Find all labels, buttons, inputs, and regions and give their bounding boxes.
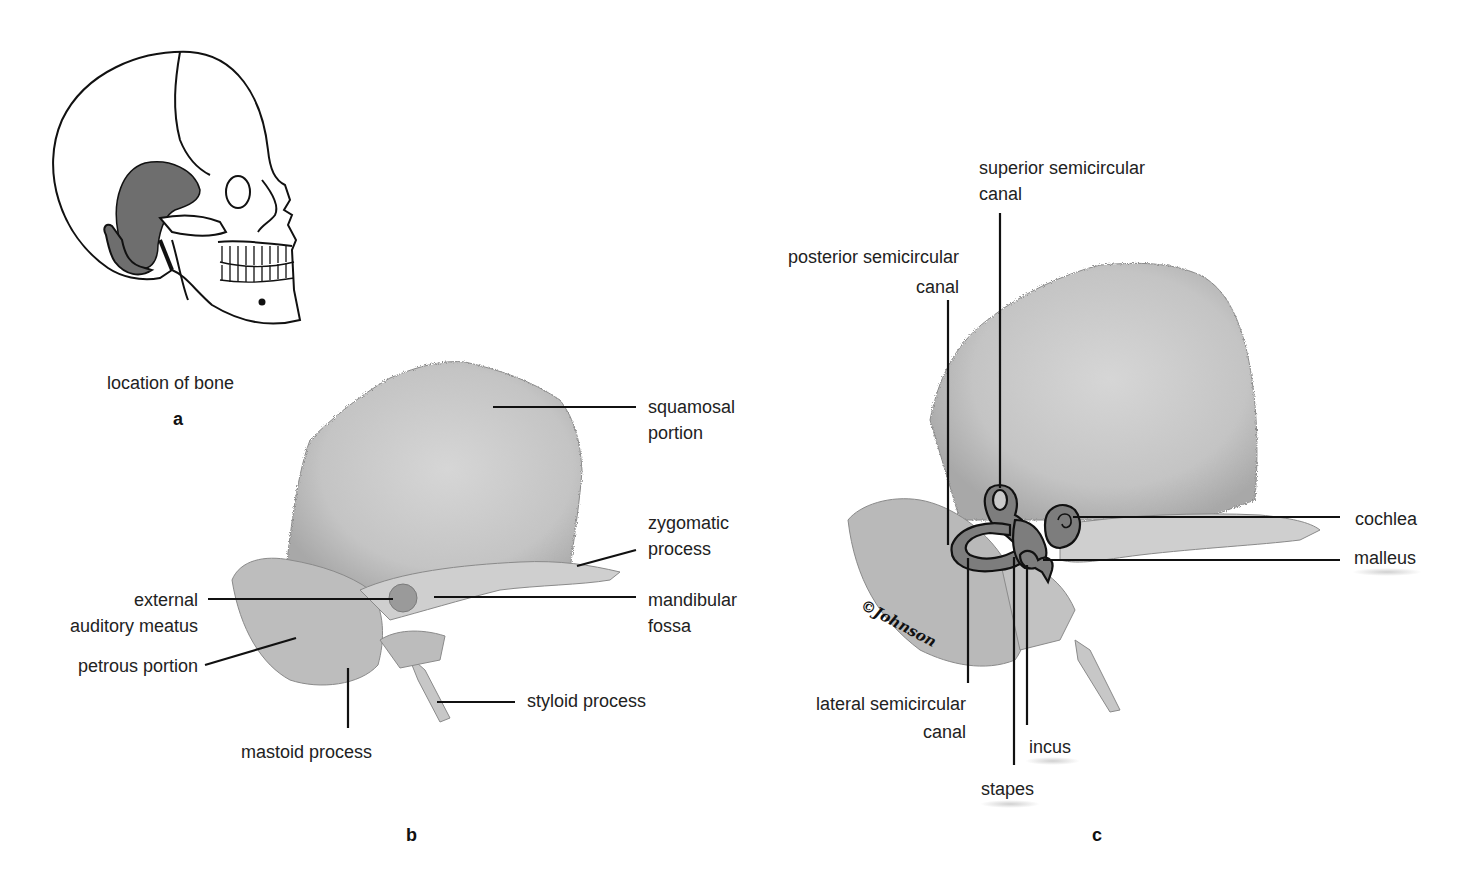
label-mastoid-process: mastoid process xyxy=(241,739,372,765)
orbit xyxy=(226,176,250,208)
label-external-auditory-meatus: external auditory meatus xyxy=(70,587,198,639)
panel-letter-a: a xyxy=(173,409,183,430)
auditory-opening xyxy=(389,584,417,612)
label-line-1: squamosal xyxy=(648,394,735,420)
label-cochlea: cochlea xyxy=(1355,506,1417,532)
label-stapes: stapes xyxy=(981,776,1034,802)
label-line-2: process xyxy=(648,536,729,562)
label-squamosal-portion: squamosal portion xyxy=(648,394,735,446)
panel-letter-b: b xyxy=(406,825,417,846)
label-lateral-semicircular-canal: lateral semicircular canal xyxy=(816,690,966,746)
label-line-2: portion xyxy=(648,420,735,446)
label-line-1: posterior semicircular xyxy=(788,242,959,272)
label-line-2: fossa xyxy=(648,613,737,639)
caption-location-of-bone: location of bone xyxy=(107,370,234,396)
label-zygomatic-process: zygomatic process xyxy=(648,510,729,562)
label-line-2: auditory meatus xyxy=(70,613,198,639)
skull-illustration xyxy=(53,52,300,324)
label-malleus: malleus xyxy=(1354,545,1416,571)
temporal-bone-lateral xyxy=(232,362,620,722)
panel-letter-c: c xyxy=(1092,825,1102,846)
label-superior-semicircular-canal: superior semicircular canal xyxy=(979,155,1145,207)
label-line-2: canal xyxy=(979,181,1145,207)
label-line-1: superior semicircular xyxy=(979,155,1145,181)
squamous-part-c xyxy=(930,263,1257,520)
styloid-c xyxy=(1075,640,1120,712)
leader-zygomatic xyxy=(577,550,636,566)
label-line-2: canal xyxy=(816,718,966,746)
label-incus: incus xyxy=(1029,734,1071,760)
label-posterior-semicircular-canal: posterior semicircular canal xyxy=(788,242,959,302)
label-line-1: zygomatic xyxy=(648,510,729,536)
label-styloid-process: styloid process xyxy=(527,688,646,714)
label-mandibular-fossa: mandibular fossa xyxy=(648,587,737,639)
label-line-1: external xyxy=(70,587,198,613)
label-line-1: lateral semicircular xyxy=(816,690,966,718)
label-petrous-portion: petrous portion xyxy=(78,653,198,679)
label-line-2: canal xyxy=(788,272,959,302)
zygomatic-c xyxy=(1060,514,1320,562)
figure-canvas xyxy=(0,0,1472,888)
label-line-1: mandibular xyxy=(648,587,737,613)
mental-foramen xyxy=(260,300,265,305)
